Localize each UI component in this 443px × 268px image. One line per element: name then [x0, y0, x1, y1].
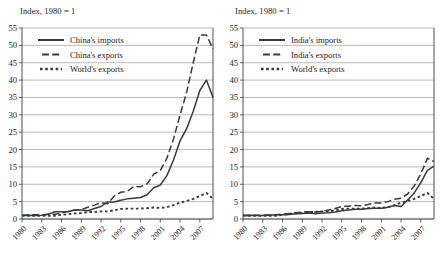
legend-label-2: China's exports — [70, 50, 124, 60]
series-line-3 — [22, 193, 213, 216]
y-tick-label: 15 — [229, 162, 238, 172]
x-tick-label: 1983 — [251, 224, 269, 242]
x-tick-label: 1992 — [90, 224, 108, 242]
x-tick-label: 1983 — [30, 224, 48, 242]
y-tick-label: 45 — [229, 58, 238, 68]
y-tick-label: 20 — [8, 145, 17, 155]
x-tick-label-group: 1980 — [231, 224, 249, 242]
y-tick-label: 0 — [234, 214, 238, 224]
x-tick-label: 1995 — [109, 224, 127, 242]
panel-title-india: Index, 1980 = 1 — [235, 6, 290, 16]
x-tick-label-group: 2007 — [188, 224, 206, 242]
x-tick-label: 1989 — [70, 224, 88, 242]
x-tick-label: 1986 — [271, 224, 289, 242]
x-tick-label-group: 1989 — [291, 224, 309, 242]
x-tick-label-group: 1992 — [311, 224, 329, 242]
chart-panel-china: Index, 1980 = 1 051015202530354045505519… — [0, 0, 221, 268]
y-tick-label: 25 — [8, 127, 17, 137]
y-tick-label: 30 — [229, 110, 238, 120]
chart-panel-india: Index, 1980 = 1 051015202530354045505519… — [221, 0, 442, 268]
legend-label-2: India's exports — [291, 50, 342, 60]
x-tick-label-group: 2004 — [390, 224, 408, 242]
x-tick-label: 1995 — [330, 224, 348, 242]
y-tick-label: 30 — [8, 110, 17, 120]
x-tick-label: 1992 — [311, 224, 329, 242]
x-tick-label: 2007 — [409, 224, 427, 242]
series-line-2 — [22, 35, 213, 216]
x-tick-label-group: 1992 — [90, 224, 108, 242]
y-tick-label: 5 — [234, 197, 238, 207]
x-tick-label: 2004 — [169, 224, 187, 242]
x-tick-label: 1998 — [350, 224, 368, 242]
x-tick-label-group: 1998 — [350, 224, 368, 242]
y-tick-label: 40 — [8, 75, 17, 85]
x-tick-label: 2001 — [149, 224, 167, 242]
x-tick-label: 1980 — [231, 224, 249, 242]
y-tick-label: 10 — [229, 179, 238, 189]
y-tick-label: 35 — [229, 92, 238, 102]
y-tick-label: 15 — [8, 162, 17, 172]
y-tick-label: 10 — [8, 179, 17, 189]
series-line-3 — [243, 193, 434, 216]
y-tick-label: 5 — [13, 197, 17, 207]
x-tick-label: 1989 — [291, 224, 309, 242]
x-tick-label-group: 1986 — [50, 224, 68, 242]
y-tick-label: 40 — [229, 75, 238, 85]
x-tick-label-group: 1980 — [10, 224, 28, 242]
y-tick-label: 20 — [229, 145, 238, 155]
x-tick-label-group: 2001 — [370, 224, 388, 242]
x-tick-label: 1998 — [129, 224, 147, 242]
y-tick-label: 55 — [8, 23, 17, 33]
y-tick-label: 50 — [8, 40, 17, 50]
x-tick-label: 2007 — [188, 224, 206, 242]
plot-area-china: 0510152025303540455055198019831986198919… — [0, 18, 221, 268]
y-tick-label: 25 — [229, 127, 238, 137]
legend-label-1: India's imports — [291, 35, 343, 45]
x-tick-label: 2004 — [390, 224, 408, 242]
legend-label-1: China's imports — [70, 35, 124, 45]
y-tick-label: 0 — [13, 214, 17, 224]
x-tick-label-group: 1989 — [70, 224, 88, 242]
figure-root: Index, 1980 = 1 051015202530354045505519… — [0, 0, 443, 268]
x-tick-label-group: 1983 — [251, 224, 269, 242]
x-tick-label-group: 2004 — [169, 224, 187, 242]
x-tick-label-group: 1983 — [30, 224, 48, 242]
y-tick-label: 55 — [229, 23, 238, 33]
y-tick-label: 45 — [8, 58, 17, 68]
x-tick-label-group: 1995 — [109, 224, 127, 242]
x-tick-label-group: 2001 — [149, 224, 167, 242]
y-tick-label: 35 — [8, 92, 17, 102]
plot-area-india: 0510152025303540455055198019831986198919… — [221, 18, 442, 268]
chart-svg-china: 0510152025303540455055198019831986198919… — [0, 18, 221, 268]
x-tick-label-group: 1995 — [330, 224, 348, 242]
x-tick-label-group: 1986 — [271, 224, 289, 242]
x-tick-label-group: 2007 — [409, 224, 427, 242]
legend-label-3: World's exports — [70, 64, 124, 74]
x-tick-label-group: 1998 — [129, 224, 147, 242]
chart-svg-india: 0510152025303540455055198019831986198919… — [221, 18, 442, 268]
legend-label-3: World's exports — [291, 64, 345, 74]
panel-title-china: Index, 1980 = 1 — [20, 6, 75, 16]
x-tick-label: 1980 — [10, 224, 28, 242]
x-tick-label: 1986 — [50, 224, 68, 242]
x-tick-label: 2001 — [370, 224, 388, 242]
y-tick-label: 50 — [229, 40, 238, 50]
